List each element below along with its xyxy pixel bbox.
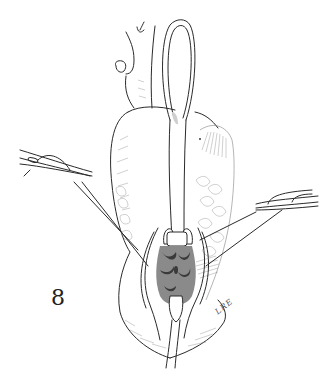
- exposed-tissue: [156, 246, 196, 322]
- loop-retractor-icon: [163, 20, 195, 246]
- figure-number: 8: [51, 285, 65, 310]
- illustration-drawing: [0, 0, 336, 371]
- left-clamp-icon: [20, 150, 92, 176]
- fatty-tissue-right: [196, 125, 234, 300]
- right-clamp-icon: [256, 190, 318, 210]
- vessel-trunk-icon: [115, 22, 155, 108]
- surgical-illustration: 8 LRE: [0, 0, 336, 371]
- tube-drain: [166, 320, 180, 368]
- fatty-tissue-left: [116, 186, 132, 240]
